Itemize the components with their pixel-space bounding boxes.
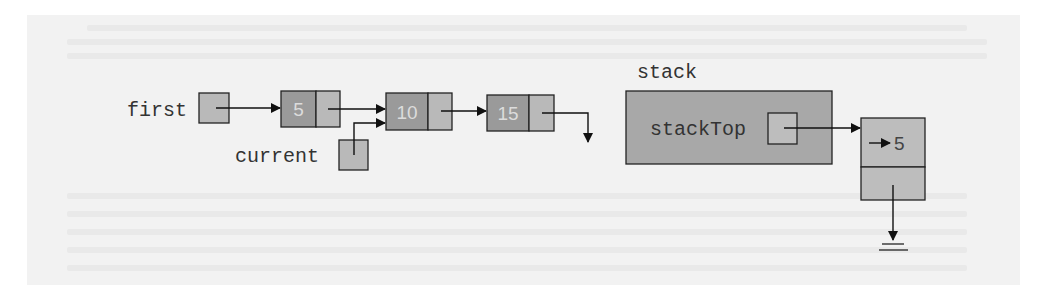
- null-ground-icon: [879, 244, 908, 250]
- node-value: 10: [396, 102, 417, 123]
- stacktop-label: stackTop: [650, 118, 746, 141]
- stack-node-value: 5: [894, 133, 905, 154]
- diagram-canvas: first 5 10 15 current stack stackTop 5: [0, 0, 1050, 299]
- node-value: 15: [497, 103, 518, 124]
- stack-label: stack: [637, 61, 697, 84]
- node-value: 5: [293, 99, 304, 120]
- first-label: first: [127, 99, 187, 122]
- current-label: current: [235, 145, 319, 168]
